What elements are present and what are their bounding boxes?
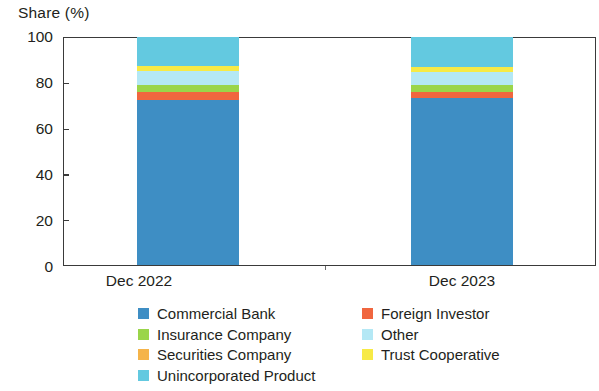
x-tick-mark-center [325, 266, 326, 270]
y-axis-title: Share (%) [18, 4, 90, 22]
y-tick-label-0: 0 [5, 259, 53, 275]
x-tick-label-dec-2023: Dec 2023 [411, 272, 513, 290]
y-tick-label-100: 100 [5, 29, 53, 45]
legend-swatch-icon [362, 308, 373, 319]
bar-segment-trust-cooperative[interactable] [411, 67, 513, 72]
legend-swatch-icon [362, 329, 373, 340]
axis-line-bottom [63, 265, 596, 266]
legend-item-commercial-bank[interactable]: Commercial Bank [138, 306, 275, 321]
axis-line-left [63, 37, 64, 266]
legend-item-securities-company[interactable]: Securities Company [138, 347, 291, 362]
legend-label: Other [381, 327, 419, 342]
legend-label: Trust Cooperative [381, 347, 500, 362]
stacked-bar-chart: Share (%) 100 80 60 40 20 0 Dec 2022 Dec… [0, 0, 599, 391]
chart-legend: Commercial BankForeign InvestorInsurance… [138, 306, 578, 388]
bar-segment-commercial-bank[interactable] [137, 100, 239, 265]
legend-label: Foreign Investor [381, 306, 489, 321]
legend-row: Unincorporated Product [138, 368, 578, 389]
bar-segment-unincorporated-product[interactable] [411, 37, 513, 67]
legend-item-insurance-company[interactable]: Insurance Company [138, 327, 291, 342]
axis-line-right [595, 37, 596, 266]
bar-segment-foreign-investor[interactable] [411, 92, 513, 98]
y-tick-label-80: 80 [5, 75, 53, 91]
legend-swatch-icon [138, 370, 149, 381]
bar-segment-other[interactable] [137, 71, 239, 85]
y-tick-label-60: 60 [5, 121, 53, 137]
legend-item-trust-cooperative[interactable]: Trust Cooperative [362, 347, 500, 362]
legend-row: Securities CompanyTrust Cooperative [138, 347, 578, 368]
y-tick-mark-60 [63, 129, 69, 130]
legend-label: Commercial Bank [157, 306, 275, 321]
plot-area [63, 37, 596, 266]
legend-label: Insurance Company [157, 327, 291, 342]
legend-label: Unincorporated Product [157, 368, 315, 383]
legend-swatch-icon [138, 329, 149, 340]
bar-segment-insurance-company[interactable] [411, 85, 513, 92]
y-tick-label-40: 40 [5, 167, 53, 183]
legend-item-foreign-investor[interactable]: Foreign Investor [362, 306, 489, 321]
legend-row: Insurance CompanyOther [138, 327, 578, 348]
bar-segment-trust-cooperative[interactable] [137, 66, 239, 71]
legend-swatch-icon [138, 349, 149, 360]
bar-segment-other[interactable] [411, 72, 513, 85]
bar-segment-foreign-investor[interactable] [137, 92, 239, 100]
y-tick-mark-80 [63, 83, 69, 84]
y-tick-mark-40 [63, 174, 69, 175]
y-tick-label-20: 20 [5, 213, 53, 229]
legend-item-other[interactable]: Other [362, 327, 419, 342]
legend-label: Securities Company [157, 347, 291, 362]
bar-segment-commercial-bank[interactable] [411, 98, 513, 264]
bar-segment-insurance-company[interactable] [137, 85, 239, 92]
bar-segment-unincorporated-product[interactable] [137, 37, 239, 66]
legend-swatch-icon [138, 308, 149, 319]
y-tick-mark-20 [63, 220, 69, 221]
legend-swatch-icon [362, 349, 373, 360]
x-tick-label-dec-2022: Dec 2022 [88, 272, 190, 290]
legend-row: Commercial BankForeign Investor [138, 306, 578, 327]
legend-item-unincorporated-product[interactable]: Unincorporated Product [138, 368, 315, 383]
